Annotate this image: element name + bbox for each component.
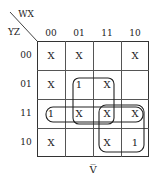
- grouping-loops: [0, 0, 164, 184]
- vertical-group-loop: [73, 78, 114, 124]
- horizontal-group-loop: [46, 107, 143, 122]
- caption-v-bar: V̅: [85, 165, 101, 175]
- square-group-loop: [99, 105, 144, 152]
